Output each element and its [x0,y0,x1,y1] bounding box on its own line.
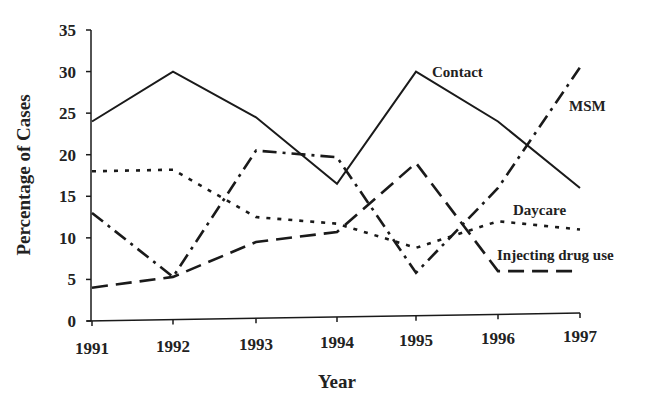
line-chart: 05101520253035 1991199219931994199519961… [0,0,657,406]
label-daycare: Daycare [513,202,566,218]
x-tick-label: 1992 [156,337,190,356]
x-tick-label: 1994 [320,333,355,352]
x-axis-line [87,313,580,321]
x-tick-label: 1991 [75,339,109,358]
y-tick-label: 10 [59,229,76,248]
x-tick-label: 1997 [563,327,598,346]
x-tick-label: 1996 [481,329,515,348]
x-axis-title: Year [318,371,357,392]
y-tick-label: 20 [59,146,76,165]
y-tick-label: 25 [59,104,76,123]
y-tick-label: 30 [59,63,76,82]
y-tick-label: 5 [68,270,77,289]
y-tick-label: 35 [59,21,76,40]
label-contact: Contact [432,64,483,80]
x-tick-label: 1993 [239,335,273,354]
y-tick-label: 15 [59,187,76,206]
label-injecting-drug-use: Injecting drug use [497,247,614,263]
series-msm [92,67,580,277]
x-tick-label: 1995 [399,331,433,350]
series-daycare [92,170,580,248]
label-msm: MSM [569,98,606,114]
series-contact [92,72,580,188]
y-axis-title: Percentage of Cases [13,94,34,255]
y-axis-ticks: 05101520253035 [59,21,91,331]
y-tick-label: 0 [68,312,77,331]
